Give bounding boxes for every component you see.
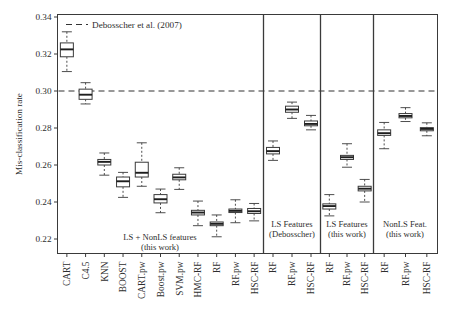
boxplot-figure: 0.220.240.260.280.300.320.34Mis-classifi… xyxy=(0,0,451,326)
y-tick-label: 0.26 xyxy=(35,160,51,170)
group-label-line1: LS Features xyxy=(326,219,368,229)
group-label-line2: (Debosscher) xyxy=(269,229,315,239)
x-tick-label: RF.pw xyxy=(342,261,352,286)
x-tick-label: KNN xyxy=(100,261,110,282)
group-label-line2: (this work) xyxy=(386,229,424,239)
y-tick-label: 0.28 xyxy=(35,123,51,133)
x-axis: CARTC4.5KNNBOOSTCART.pwBoost.pwSVM.pwHMC… xyxy=(62,254,432,300)
y-tick-label: 0.22 xyxy=(35,234,51,244)
x-tick-label: RF xyxy=(325,262,335,273)
x-tick-label: RF xyxy=(212,262,222,273)
group-label-line1: NonLS Feat. xyxy=(383,219,427,229)
box-iqr[interactable] xyxy=(135,162,148,177)
x-tick-label: BOOST xyxy=(118,261,128,292)
group-label-line1: LS + NonLS features xyxy=(123,232,197,242)
x-tick-label: RF.pw xyxy=(287,261,297,286)
x-tick-label: CART.pw xyxy=(137,261,147,299)
x-tick-label: HSC-RF xyxy=(422,262,432,295)
x-tick-label: RF.pw xyxy=(401,261,411,286)
y-tick-label: 0.34 xyxy=(35,12,51,22)
y-tick-label: 0.32 xyxy=(35,49,51,59)
x-tick-label: Boost.pw xyxy=(156,261,166,297)
y-tick-label: 0.24 xyxy=(35,197,51,207)
x-tick-label: HSC-RF xyxy=(250,262,260,295)
y-tick-label: 0.30 xyxy=(35,86,51,96)
x-tick-label: HSC-RF xyxy=(360,262,370,295)
x-tick-label: RF.pw xyxy=(231,261,241,286)
x-tick-label: HMC-RF xyxy=(193,262,203,298)
y-axis-title: Mis-classification rate xyxy=(14,93,24,175)
group-label-line2: (this work) xyxy=(141,242,179,252)
y-axis: 0.220.240.260.280.300.320.34 xyxy=(35,12,57,244)
x-tick-label: SVM.pw xyxy=(175,261,185,295)
x-tick-label: RF xyxy=(380,262,390,273)
group-label-line1: LS Features xyxy=(271,219,313,229)
group-label-line2: (this work) xyxy=(328,229,366,239)
chart-canvas: 0.220.240.260.280.300.320.34Mis-classifi… xyxy=(0,0,451,326)
legend-label: Debosscher et al. (2007) xyxy=(92,20,182,30)
x-tick-label: CART xyxy=(62,261,72,286)
x-tick-label: HSC-RF xyxy=(306,262,316,295)
x-tick-label: C4.5 xyxy=(81,261,91,279)
x-tick-label: RF xyxy=(268,262,278,273)
